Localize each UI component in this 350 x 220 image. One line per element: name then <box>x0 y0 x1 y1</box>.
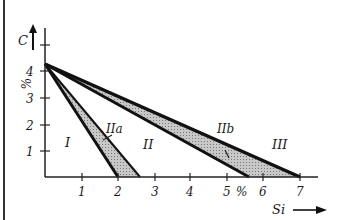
y-tick-label-4: 4 <box>25 65 34 79</box>
region-label-III: III <box>271 137 288 152</box>
diagram-canvas: C % 1 2 3 4 1 2 3 4 5 % 6 7 Si I IIa II … <box>0 0 350 220</box>
y-tick-label-2: 2 <box>25 119 34 133</box>
x-tick-label-2: 2 <box>113 185 122 199</box>
y-tick-label-3: 3 <box>26 92 34 106</box>
x-tick-label-6: 6 <box>259 185 267 199</box>
region-label-II: II <box>142 137 154 152</box>
region-label-IIb: IIb <box>216 122 234 136</box>
region-label-I: I <box>64 135 71 150</box>
y-axis-arrow-icon <box>29 24 37 50</box>
x-tick-label-4: 4 <box>185 185 194 199</box>
y-axis-label: C <box>18 33 28 48</box>
x-tick-label-7: 7 <box>296 185 304 199</box>
x-tick-label-1: 1 <box>78 185 86 199</box>
x-tick-label-5: 5 <box>223 185 231 199</box>
x-axis-label: Si <box>272 202 285 217</box>
y-tick-label-1: 1 <box>26 145 34 159</box>
axes <box>45 28 318 177</box>
x-tick-label-3: 3 <box>151 185 159 199</box>
boundary-lines <box>45 64 300 177</box>
x-axis-unit: % <box>236 185 247 199</box>
region-label-IIa: IIa <box>105 122 123 136</box>
y-axis-unit: % <box>18 78 32 89</box>
x-axis-arrow-icon <box>293 206 327 214</box>
